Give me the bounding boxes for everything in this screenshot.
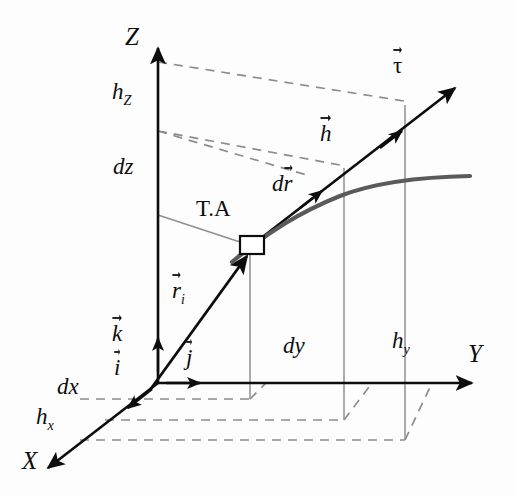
dashed-connector-1 <box>250 383 266 399</box>
label-dx: dx <box>57 375 79 398</box>
vector-arrow-icon <box>112 314 122 322</box>
diagram-canvas: Z Y X hZ dz T.A dy hy dx hx τ <box>0 0 515 496</box>
dashed-line-hz-lower <box>158 131 345 166</box>
axis-label-x: X <box>22 448 37 473</box>
vector-label-i-glyph: i <box>114 355 120 380</box>
vector-label-r-i: r i <box>172 270 185 306</box>
dashed-line-hz-upper <box>158 62 410 102</box>
vector-arrow-icon <box>186 338 192 346</box>
vector-label-dr: d r <box>272 163 292 195</box>
tangent-point-square <box>240 236 264 254</box>
vector-label-j: j <box>186 337 192 369</box>
vector-label-k-glyph: k <box>112 321 122 346</box>
vector-arrow-icon <box>172 271 181 279</box>
vector-label-dr-prefix: d <box>272 171 284 196</box>
dashed-connector-2 <box>344 383 372 420</box>
label-h-y-sub: y <box>404 341 410 357</box>
vector-label-k: k <box>112 313 122 345</box>
label-tangent-affine: T.A <box>196 197 231 220</box>
vector-label-j-glyph: j <box>186 345 192 370</box>
label-h-y-base: h <box>392 328 404 353</box>
label-h-y: hy <box>392 329 410 356</box>
vector-label-r-i-sub: i <box>181 292 185 307</box>
vector-label-h-glyph: h <box>320 121 332 146</box>
coordinate-axes <box>48 48 472 468</box>
dashed-connector-3 <box>405 383 432 440</box>
figure-svg <box>0 0 515 496</box>
vector-label-i: i <box>114 347 120 379</box>
label-h-z-sub: Z <box>124 92 132 108</box>
label-h-z: hZ <box>112 80 131 107</box>
vector-label-tau: τ <box>393 45 402 77</box>
label-h-x-base: h <box>36 404 48 429</box>
vector-arrow-icon <box>320 114 332 122</box>
label-dz: dz <box>113 155 133 178</box>
label-dy: dy <box>283 334 305 357</box>
label-h-x: hx <box>36 405 54 432</box>
vector-arrow-icon <box>114 348 120 356</box>
axis-label-z: Z <box>125 24 139 49</box>
label-h-z-base: h <box>112 79 124 104</box>
vector-label-r-i-glyph: r <box>172 278 181 303</box>
tangent-arrowhead-h <box>380 131 402 148</box>
label-h-x-sub: x <box>48 417 54 433</box>
vector-label-dr-glyph: r <box>284 171 293 196</box>
vector-arrow-icon <box>284 164 293 172</box>
vector-r-i-line <box>150 256 247 390</box>
axis-label-y: Y <box>468 341 482 366</box>
trajectory-curve <box>232 176 470 262</box>
vector-label-tau-glyph: τ <box>393 53 402 78</box>
vector-label-h: h <box>320 113 332 145</box>
vector-arrow-icon <box>393 46 402 54</box>
